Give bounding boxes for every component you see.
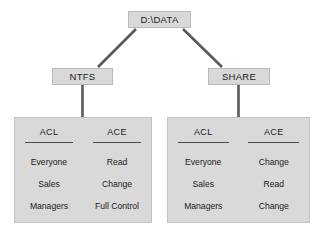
share-permissions-panel: ACL Everyone Sales Managers ACE Change R… — [167, 117, 310, 223]
node-ntfs[interactable]: NTFS — [52, 68, 113, 85]
ntfs-ace-header: ACE — [107, 127, 127, 138]
share-acl-column: ACL Everyone Sales Managers — [168, 118, 239, 222]
ntfs-acl-item: Managers — [30, 201, 68, 212]
share-acl-item: Everyone — [185, 157, 221, 168]
ntfs-ace-column: ACE Read Change Full Control — [83, 118, 151, 222]
share-ace-header: ACE — [264, 127, 284, 138]
ntfs-acl-item: Sales — [38, 179, 60, 190]
ntfs-ace-item: Full Control — [95, 201, 139, 212]
ntfs-ace-divider — [93, 142, 142, 143]
share-ace-item: Read — [263, 179, 284, 190]
node-root-path[interactable]: D:\DATA — [128, 11, 191, 28]
share-ace-item: Change — [259, 157, 289, 168]
share-acl-divider — [178, 142, 229, 143]
node-share-label: SHARE — [222, 71, 256, 82]
connector-root-to-share — [183, 29, 222, 67]
connector-root-to-ntfs — [98, 29, 136, 67]
ntfs-permissions-panel: ACL Everyone Sales Managers ACE Read Cha… — [14, 117, 152, 223]
node-share[interactable]: SHARE — [208, 68, 270, 85]
permissions-diagram: D:\DATA NTFS SHARE ACL Everyone Sales Ma… — [0, 0, 327, 234]
node-ntfs-label: NTFS — [69, 71, 95, 82]
share-ace-item: Change — [259, 201, 289, 212]
share-ace-divider — [248, 142, 299, 143]
ntfs-acl-header: ACL — [40, 127, 59, 138]
ntfs-acl-item: Everyone — [31, 157, 67, 168]
share-acl-item: Managers — [184, 201, 222, 212]
ntfs-ace-item: Change — [102, 179, 132, 190]
node-root-path-label: D:\DATA — [140, 14, 178, 25]
share-acl-item: Sales — [193, 179, 215, 190]
share-acl-header: ACL — [194, 127, 213, 138]
share-ace-column: ACE Change Read Change — [239, 118, 310, 222]
ntfs-ace-item: Read — [107, 157, 128, 168]
ntfs-acl-divider — [25, 142, 74, 143]
ntfs-acl-column: ACL Everyone Sales Managers — [15, 118, 83, 222]
